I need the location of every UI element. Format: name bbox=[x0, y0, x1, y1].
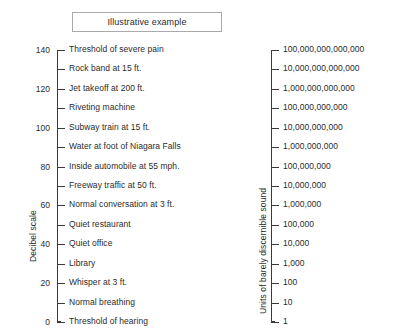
tick-mark bbox=[271, 108, 279, 109]
tick-mark bbox=[57, 225, 65, 226]
tick-mark bbox=[57, 50, 65, 51]
tick-label: 100,000,000,000 bbox=[283, 103, 348, 112]
tick-mark bbox=[271, 186, 279, 187]
decibel-axis-title: Decibel scale bbox=[28, 210, 38, 262]
tick-value: 0 bbox=[14, 318, 50, 327]
tick-mark bbox=[271, 167, 279, 168]
tick-value: 40 bbox=[14, 240, 50, 249]
tick-mark bbox=[57, 264, 65, 265]
tick-description: Threshold of severe pain bbox=[69, 45, 164, 54]
tick-value: 140 bbox=[14, 46, 50, 55]
chart-title-box: Illustrative example bbox=[72, 12, 222, 32]
tick-mark bbox=[57, 69, 65, 70]
tick-description: Subway train at 15 ft. bbox=[69, 123, 150, 132]
tick-description: Freeway traffic at 50 ft. bbox=[69, 181, 157, 190]
tick-description: Quiet restaurant bbox=[69, 220, 131, 229]
tick-label: 1,000,000,000,000 bbox=[283, 84, 355, 93]
tick-label: 10,000,000,000,000 bbox=[283, 64, 360, 73]
tick-mark bbox=[271, 283, 279, 284]
tick-mark bbox=[57, 167, 65, 168]
tick-mark bbox=[271, 225, 279, 226]
tick-label: 1,000,000,000 bbox=[283, 142, 338, 151]
tick-mark bbox=[271, 50, 279, 51]
tick-description: Riveting machine bbox=[69, 103, 135, 112]
tick-value: 100 bbox=[14, 124, 50, 133]
tick-mark bbox=[271, 69, 279, 70]
tick-label: 100,000 bbox=[283, 220, 314, 229]
tick-label: 100,000,000 bbox=[283, 162, 331, 171]
tick-description: Normal breathing bbox=[69, 298, 135, 307]
tick-mark bbox=[57, 147, 65, 148]
tick-mark bbox=[271, 322, 279, 323]
tick-mark bbox=[57, 205, 65, 206]
tick-mark bbox=[271, 264, 279, 265]
sound-units-axis-title: Units of barely discernible sound bbox=[258, 188, 268, 314]
tick-value: 80 bbox=[14, 163, 50, 172]
tick-description: Normal conversation at 3 ft. bbox=[69, 200, 174, 209]
tick-description: Quiet office bbox=[69, 239, 112, 248]
tick-label: 1,000,000 bbox=[283, 200, 321, 209]
tick-mark bbox=[271, 89, 279, 90]
tick-value: 20 bbox=[14, 279, 50, 288]
tick-label: 10,000,000,000 bbox=[283, 123, 343, 132]
tick-label: 10,000,000 bbox=[283, 181, 326, 190]
tick-description: Rock band at 15 ft. bbox=[69, 64, 141, 73]
tick-mark bbox=[57, 108, 65, 109]
tick-description: Jet takeoff at 200 ft. bbox=[69, 84, 145, 93]
tick-mark bbox=[57, 89, 65, 90]
tick-mark bbox=[271, 244, 279, 245]
tick-mark bbox=[57, 322, 65, 323]
tick-mark bbox=[57, 283, 65, 284]
tick-mark bbox=[271, 303, 279, 304]
tick-mark bbox=[271, 128, 279, 129]
tick-label: 10 bbox=[283, 298, 293, 307]
tick-description: Whisper at 3 ft. bbox=[69, 278, 127, 287]
tick-mark bbox=[57, 303, 65, 304]
tick-mark bbox=[271, 147, 279, 148]
tick-label: 100 bbox=[283, 278, 297, 287]
tick-label: 100,000,000,000,000 bbox=[283, 45, 364, 54]
tick-mark bbox=[57, 186, 65, 187]
tick-description: Water at foot of Niagara Falls bbox=[69, 142, 181, 151]
tick-label: 10,000 bbox=[283, 239, 309, 248]
tick-label: 1,000 bbox=[283, 259, 305, 268]
tick-label: 1 bbox=[283, 317, 288, 326]
tick-value: 60 bbox=[14, 201, 50, 210]
chart-title-text: Illustrative example bbox=[107, 17, 186, 27]
tick-description: Threshold of hearing bbox=[69, 317, 148, 326]
tick-mark bbox=[57, 128, 65, 129]
tick-description: Inside automobile at 55 mph. bbox=[69, 162, 180, 171]
tick-description: Library bbox=[69, 259, 95, 268]
tick-mark bbox=[57, 244, 65, 245]
tick-mark bbox=[271, 205, 279, 206]
tick-value: 120 bbox=[14, 85, 50, 94]
